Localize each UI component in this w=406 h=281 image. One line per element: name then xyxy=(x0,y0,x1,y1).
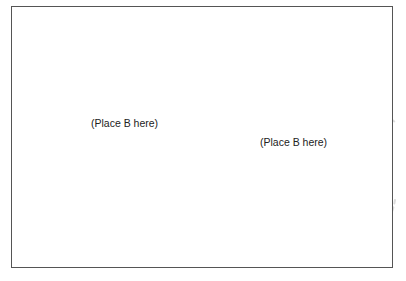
place-b-label-right: (Place B here) xyxy=(260,136,327,148)
diagram-frame xyxy=(11,6,393,268)
place-b-label-left: (Place B here) xyxy=(91,117,158,129)
